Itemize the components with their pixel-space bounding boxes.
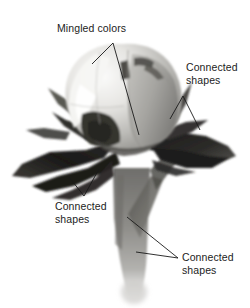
annotation-connected-shapes-bottom: Connected shapes xyxy=(182,251,234,276)
annotation-connected-shapes-right: Connected shapes xyxy=(186,61,238,86)
annotation-mingled-colors: Mingled colors xyxy=(57,22,126,35)
annotation-connected-shapes-left: Connected shapes xyxy=(55,200,107,225)
annotated-rose-figure: Mingled colors Connected shapes Connecte… xyxy=(0,0,250,308)
